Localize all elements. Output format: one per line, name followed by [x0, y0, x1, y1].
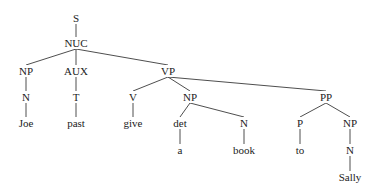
tree-node-past: past [66, 117, 86, 129]
tree-node-sally: Sally [338, 171, 363, 183]
tree-node-book: book [232, 144, 256, 156]
edge-vp-v [133, 77, 168, 91]
tree-node-s: S [72, 12, 80, 24]
tree-node-v: V [128, 91, 138, 103]
tree-node-aux: AUX [63, 65, 89, 77]
tree-node-pp: PP [319, 91, 333, 103]
tree-node-n1: N [21, 91, 31, 103]
tree-node-det: det [172, 117, 187, 129]
edge-vp-pp [168, 77, 326, 91]
edge-np2-det [180, 103, 190, 117]
tree-node-joe: Joe [18, 117, 35, 129]
tree-node-p: P [296, 117, 304, 129]
tree-node-n3: N [345, 144, 355, 156]
edge-nuc-vp [76, 49, 168, 65]
tree-node-n2: N [239, 117, 249, 129]
tree-node-t: T [72, 91, 81, 103]
edge-pp-np3 [326, 103, 350, 117]
edge-pp-p [300, 103, 326, 117]
tree-node-to: to [295, 144, 306, 156]
tree-node-np1: NP [18, 65, 34, 77]
tree-node-np2: NP [182, 91, 198, 103]
tree-node-nuc: NUC [63, 37, 88, 49]
tree-node-np3: NP [342, 117, 358, 129]
edge-nuc-np1 [26, 49, 76, 65]
tree-node-give: give [123, 117, 144, 129]
edge-np2-n2 [190, 103, 244, 117]
tree-node-a: a [177, 144, 184, 156]
tree-node-vp: VP [160, 65, 176, 77]
